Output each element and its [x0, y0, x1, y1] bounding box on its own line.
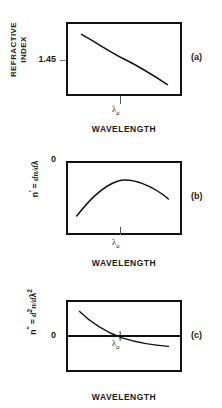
- panel-a-y-tick-label: 1.45: [24, 54, 56, 64]
- panel-a-plot-frame: [66, 22, 182, 96]
- panel-a-y-axis-title-line1: REFRACTIVE: [9, 22, 18, 77]
- panel-a-x-axis-title: WAVELENGTH: [66, 124, 182, 134]
- panel-c-letter: (c): [191, 330, 202, 340]
- panel-a-letter: (a): [191, 52, 202, 62]
- panel-a: REFRACTIVE INDEX 1.45 λa WAVELENGTH (a): [0, 0, 222, 138]
- panel-b-y-tick-label: 0: [34, 154, 56, 164]
- panel-a-curve-refractive-index: [82, 34, 168, 84]
- panel-b-curve-first-derivative: [77, 180, 169, 216]
- panel-a-x-tick-mark: [120, 96, 121, 104]
- panel-c: n″ = d2n/dλ2 0 λa WAVELENGTH (c): [0, 272, 222, 408]
- panel-b-y-axis-title: n′ = dn/dλ: [28, 142, 40, 216]
- panel-c-curve-svg: [68, 302, 180, 370]
- panel-b-x-tick-mark: [120, 227, 121, 235]
- panel-b-curve-svg: [68, 163, 180, 233]
- panel-c-x-tick-label: λa: [112, 338, 119, 350]
- panel-b-x-tick-label: λa: [112, 237, 119, 249]
- panel-a-x-tick-label: λa: [112, 104, 119, 116]
- panel-b-x-axis-title: WAVELENGTH: [66, 258, 182, 268]
- panel-c-curve-second-derivative: [80, 311, 169, 346]
- panel-a-curve-svg: [68, 24, 180, 94]
- panel-c-plot-frame: [66, 300, 182, 372]
- panel-c-y-tick-label: 0: [34, 330, 56, 340]
- panel-a-y-axis-title: REFRACTIVE INDEX: [9, 13, 28, 87]
- three-panel-dispersion-figure: REFRACTIVE INDEX 1.45 λa WAVELENGTH (a) …: [0, 0, 222, 408]
- panel-c-x-axis-title: WAVELENGTH: [66, 392, 182, 402]
- panel-b-plot-frame: [66, 161, 182, 235]
- panel-b: n′ = dn/dλ 0 λa WAVELENGTH (b): [0, 138, 222, 272]
- panel-b-letter: (b): [191, 191, 203, 201]
